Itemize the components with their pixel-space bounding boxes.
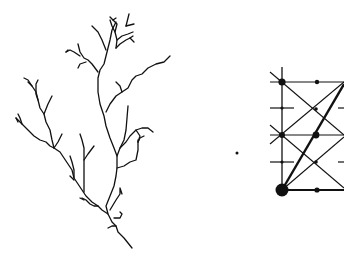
branching-tree [16,14,170,248]
node-bottom-left [276,184,289,197]
node-center [313,132,320,139]
node-top-mid [315,80,319,84]
node-cross-108 [314,107,318,111]
node-bottom-mid [314,187,319,192]
node-cross-162 [314,160,318,164]
node-small-left-162 [280,160,283,163]
figure-canvas [0,0,344,264]
node-small-left-108 [280,106,283,109]
node-top-left [278,78,285,85]
isolated-dot [236,152,239,155]
node-mid-left [279,132,285,138]
